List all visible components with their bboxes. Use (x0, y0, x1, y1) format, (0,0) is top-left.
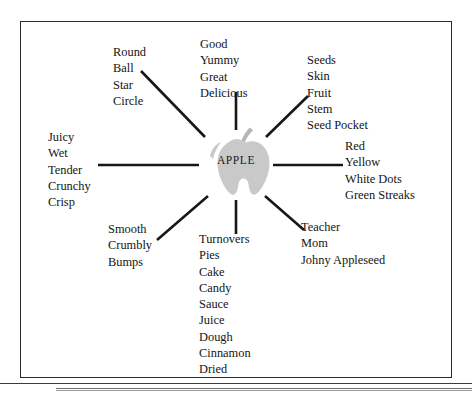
word: Red (345, 138, 415, 154)
word: Great (200, 69, 248, 85)
taste-branch-words: Good Yummy Great Delicious (200, 36, 248, 101)
word: Circle (113, 93, 146, 109)
word: Tender (48, 162, 91, 178)
word: Teacher (301, 219, 385, 235)
word: Cinnamon (199, 345, 251, 361)
word: Yellow (345, 154, 415, 170)
apple-center-label: APPLE (196, 154, 276, 166)
feel-branch-words: Smooth Crumbly Bumps (108, 221, 152, 270)
word: Turnovers (199, 231, 251, 247)
word: Juicy (48, 129, 91, 145)
word: Candy (199, 280, 251, 296)
word: Round (113, 44, 146, 60)
word: Crumbly (108, 237, 152, 253)
word: Dough (199, 329, 251, 345)
word: Mom (301, 235, 385, 251)
word: Crisp (48, 194, 91, 210)
parts-branch-words: Seeds Skin Fruit Stem Seed Pocket (307, 52, 368, 133)
diagram-page: APPLE Round Ball Star Circle Good Yummy … (0, 0, 472, 396)
word: Dried (199, 361, 251, 377)
word: Bumps (108, 254, 152, 270)
page-rule-primary (0, 383, 472, 384)
word: White Dots (345, 171, 415, 187)
apple-body-icon (218, 139, 270, 195)
word: Seed Pocket (307, 117, 368, 133)
word: Crunchy (48, 178, 91, 194)
word: Green Streaks (345, 187, 415, 203)
word: Yummy (200, 52, 248, 68)
word: Star (113, 77, 146, 93)
word: Smooth (108, 221, 152, 237)
word: Skin (307, 68, 368, 84)
word: Good (200, 36, 248, 52)
word: Wet (48, 145, 91, 161)
word: Seeds (307, 52, 368, 68)
color-branch-words: Red Yellow White Dots Green Streaks (345, 138, 415, 203)
word: Juice (199, 312, 251, 328)
word: Cake (199, 264, 251, 280)
page-rule-tertiary (56, 390, 472, 391)
foods-branch-words: Turnovers Pies Cake Candy Sauce Juice Do… (199, 231, 251, 378)
word: Johny Appleseed (301, 252, 385, 268)
word: Fruit (307, 85, 368, 101)
apple-center-node: APPLE (196, 126, 276, 204)
page-rule-secondary (56, 388, 472, 389)
word: Ball (113, 60, 146, 76)
people-branch-words: Teacher Mom Johny Appleseed (301, 219, 385, 268)
word: Delicious (200, 85, 248, 101)
texture-branch-words: Juicy Wet Tender Crunchy Crisp (48, 129, 91, 210)
word: Sauce (199, 296, 251, 312)
word: Stem (307, 101, 368, 117)
shape-branch-words: Round Ball Star Circle (113, 44, 146, 109)
word: Pies (199, 247, 251, 263)
